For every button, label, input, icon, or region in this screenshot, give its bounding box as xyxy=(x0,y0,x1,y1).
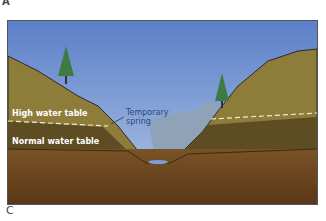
normal-water-table-label: Normal water table xyxy=(12,137,99,146)
temporary-spring-line2: spring xyxy=(126,117,168,126)
bedrock-layer xyxy=(8,149,317,204)
temporary-spring-line1: Temporary xyxy=(126,108,168,117)
diagram-frame: High water table Normal water table Temp… xyxy=(7,20,318,205)
high-water-table-label: High water table xyxy=(12,109,88,118)
panel-letter-a: A xyxy=(2,0,10,7)
temporary-spring-label: Temporary spring xyxy=(126,108,168,126)
valley-stream xyxy=(148,160,168,164)
panel-letter-c: C xyxy=(6,204,14,217)
